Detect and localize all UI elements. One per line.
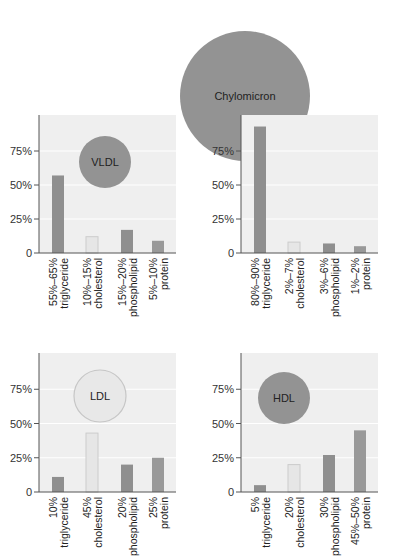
x-category-label: protein	[158, 497, 170, 529]
x-label-group: 55%–65%triglyceride	[47, 258, 70, 309]
particle-label: VLDL	[91, 156, 119, 168]
x-label-group: 10%–15%cholesterol	[81, 258, 104, 309]
y-tick-label: 50%	[212, 179, 234, 191]
y-tick-label: 0	[228, 486, 234, 498]
x-label-group: 5%triglyceride	[249, 497, 272, 548]
x-category-label: triglyceride	[58, 497, 70, 548]
y-tick-label: 25%	[10, 213, 32, 225]
y-tick-label: 25%	[212, 452, 234, 464]
y-tick-label: 75%	[10, 383, 32, 395]
y-tick-label: 75%	[10, 145, 32, 157]
x-category-label: protein	[158, 258, 170, 290]
x-category-label: phospholipid	[329, 497, 341, 556]
y-tick-label: 50%	[212, 418, 234, 430]
y-tick-label: 50%	[10, 179, 32, 191]
x-label-group: 30%phospholipid	[318, 497, 341, 556]
bar-cholesterol	[288, 465, 300, 492]
x-label-group: 45%cholesterol	[81, 497, 104, 548]
x-category-label: phospholipid	[127, 497, 139, 556]
x-category-label: triglyceride	[260, 258, 272, 309]
particle-hdl: HDL	[258, 372, 310, 424]
x-category-label: cholesterol	[294, 497, 306, 548]
bar-phospholipid	[121, 230, 133, 253]
bar-protein	[354, 246, 366, 253]
x-label-group: 5%–10%protein	[147, 258, 170, 300]
x-label-group: 2%–7%cholesterol	[283, 258, 306, 309]
bar-triglyceride	[52, 477, 64, 492]
bar-triglyceride	[254, 127, 266, 253]
x-category-label: triglyceride	[260, 497, 272, 548]
x-label-group: 3%–6%phospholipid	[318, 258, 341, 317]
x-category-label: triglyceride	[58, 258, 70, 309]
chart-vldl: 025%50%75%55%–65%triglyceride10%–15%chol…	[10, 115, 176, 317]
bar-protein	[354, 430, 366, 492]
chart-ldl: 025%50%75%10%triglyceride45%cholesterol2…	[10, 353, 176, 556]
bar-cholesterol	[288, 242, 300, 253]
y-tick-label: 0	[228, 247, 234, 259]
x-category-label: phospholipid	[329, 258, 341, 317]
x-label-group: 15%–20%phospholipid	[116, 258, 139, 317]
chart-hdl: 025%50%75%5%triglyceride20%cholesterol30…	[212, 353, 378, 556]
x-category-label: protein	[360, 497, 372, 529]
x-category-label: cholesterol	[92, 497, 104, 548]
particle-label: HDL	[273, 392, 295, 404]
x-category-label: protein	[360, 258, 372, 290]
x-category-label: cholesterol	[92, 258, 104, 309]
x-label-group: 25%protein	[147, 497, 170, 529]
y-tick-label: 50%	[10, 418, 32, 430]
x-category-label: cholesterol	[294, 258, 306, 309]
bar-cholesterol	[86, 237, 98, 253]
bar-triglyceride	[254, 485, 266, 492]
lipoprotein-composition-figure: Chylomicron 025%50%75%55%–65%triglycerid…	[0, 0, 397, 560]
y-tick-label: 75%	[212, 383, 234, 395]
x-label-group: 1%–2%protein	[349, 258, 372, 294]
x-label-group: 45%–50%protein	[349, 497, 372, 545]
particle-ldl: LDL	[74, 370, 126, 422]
particle-label: LDL	[90, 390, 110, 402]
x-label-group: 20%cholesterol	[283, 497, 306, 548]
bar-protein	[152, 458, 164, 492]
particle-label: Chylomicron	[214, 90, 275, 102]
bar-phospholipid	[121, 465, 133, 492]
bar-cholesterol	[86, 433, 98, 492]
bar-triglyceride	[52, 175, 64, 253]
bar-protein	[152, 241, 164, 253]
x-label-group: 10%triglyceride	[47, 497, 70, 548]
x-label-group: 80%–90%triglyceride	[249, 258, 272, 309]
y-tick-label: 25%	[212, 213, 234, 225]
y-tick-label: 75%	[212, 145, 234, 157]
x-category-label: phospholipid	[127, 258, 139, 317]
y-tick-label: 0	[26, 247, 32, 259]
y-tick-label: 0	[26, 486, 32, 498]
bar-phospholipid	[323, 243, 335, 253]
charts-layer: 025%50%75%55%–65%triglyceride10%–15%chol…	[10, 115, 378, 556]
y-tick-label: 25%	[10, 452, 32, 464]
bar-phospholipid	[323, 455, 335, 492]
particle-vldl: VLDL	[79, 136, 131, 188]
x-label-group: 20%phospholipid	[116, 497, 139, 556]
